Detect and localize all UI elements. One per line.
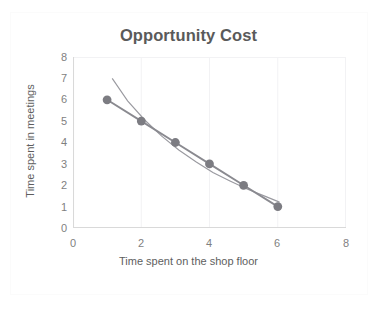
data-line <box>107 100 278 207</box>
x-tick-label: 2 <box>131 238 151 249</box>
y-tick-label: 5 <box>51 116 67 127</box>
y-axis-title: Time spent in meetings <box>24 81 36 201</box>
y-tick-label: 4 <box>51 137 67 148</box>
x-tick-label: 6 <box>267 238 287 249</box>
y-tick-label: 3 <box>51 159 67 170</box>
y-tick-label: 8 <box>51 52 67 63</box>
x-tick-label: 4 <box>199 238 219 249</box>
chart-title: Opportunity Cost <box>0 26 377 45</box>
x-axis-title: Time spent on the shop floor <box>0 255 377 267</box>
chart-container: Opportunity Cost 8 7 6 5 4 3 2 1 0 0 2 4… <box>0 0 377 309</box>
data-point <box>103 95 112 104</box>
y-tick-label: 7 <box>51 73 67 84</box>
y-tick-label: 1 <box>51 202 67 213</box>
plot-area <box>73 57 346 228</box>
y-tick-label: 0 <box>51 223 67 234</box>
x-tick-label: 0 <box>63 238 83 249</box>
gridlines <box>73 57 346 228</box>
data-point <box>137 117 146 126</box>
trend-line <box>112 78 279 202</box>
data-point <box>205 160 214 169</box>
y-tick-label: 2 <box>51 180 67 191</box>
y-tick-label: 6 <box>51 94 67 105</box>
data-point <box>273 202 282 211</box>
data-point <box>171 138 180 147</box>
x-tick-label: 8 <box>336 238 356 249</box>
data-point <box>239 181 248 190</box>
